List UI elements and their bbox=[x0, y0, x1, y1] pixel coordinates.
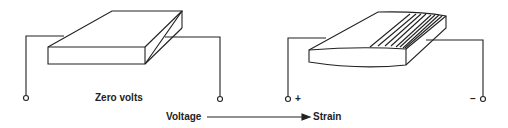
negative-sign-label: – bbox=[470, 93, 476, 104]
voltage-to-strain-arrow bbox=[207, 114, 310, 120]
voltage-label: Voltage bbox=[166, 111, 201, 122]
zero-volts-label: Zero volts bbox=[95, 92, 143, 103]
positive-terminal bbox=[286, 97, 291, 102]
positive-sign-label: + bbox=[295, 93, 301, 104]
strain-label: Strain bbox=[313, 111, 341, 122]
left-terminal-a bbox=[24, 96, 29, 101]
piezo-diagram bbox=[0, 0, 508, 128]
left-terminal-b bbox=[218, 97, 223, 102]
left-crystal-block bbox=[48, 11, 182, 64]
negative-terminal bbox=[481, 97, 486, 102]
right-crystal-block bbox=[309, 12, 446, 67]
